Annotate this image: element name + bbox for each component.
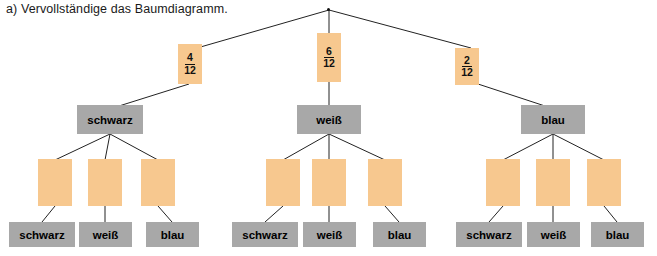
worksheet-canvas: a) Vervollständige das Baumdiagramm. — [0, 0, 657, 256]
probability-box-level2-2[interactable] — [88, 159, 122, 206]
probability-box-level1-3[interactable]: 2 12 — [455, 48, 479, 85]
fraction-denominator: 12 — [182, 65, 198, 76]
label-box-level2-2[interactable]: weiß — [79, 222, 132, 247]
probability-box-level2-3[interactable] — [141, 159, 175, 206]
probability-box-level2-6[interactable] — [368, 159, 402, 206]
fraction-numerator: 4 — [185, 52, 195, 64]
probability-box-level2-7[interactable] — [486, 159, 520, 206]
label-box-level2-8[interactable]: weiß — [527, 222, 580, 247]
label-box-level1-schwarz[interactable]: schwarz — [77, 105, 143, 134]
probability-box-level2-1[interactable] — [38, 159, 72, 206]
probability-box-level1-2[interactable]: 6 12 — [317, 33, 341, 82]
tree-root-node — [327, 8, 330, 11]
label-box-level2-6[interactable]: blau — [373, 222, 426, 247]
task-instruction: a) Vervollständige das Baumdiagramm. — [6, 2, 228, 16]
label-box-level2-4[interactable]: schwarz — [232, 222, 298, 247]
fraction-denominator: 12 — [321, 58, 337, 69]
label-box-level2-5[interactable]: weiß — [303, 222, 356, 247]
probability-box-level1-1[interactable]: 4 12 — [178, 44, 202, 84]
label-box-level2-3[interactable]: blau — [146, 222, 199, 247]
label-box-level2-1[interactable]: schwarz — [9, 222, 75, 247]
label-box-level2-9[interactable]: blau — [591, 222, 644, 247]
probability-box-level2-4[interactable] — [266, 159, 300, 206]
probability-box-level2-8[interactable] — [536, 159, 570, 206]
probability-box-level2-9[interactable] — [587, 159, 621, 206]
label-box-level2-7[interactable]: schwarz — [456, 222, 522, 247]
label-box-level1-weiss[interactable]: weiß — [297, 105, 361, 134]
label-box-level1-blau[interactable]: blau — [521, 105, 585, 134]
probability-box-level2-5[interactable] — [312, 159, 346, 206]
fraction-denominator: 12 — [459, 67, 475, 78]
